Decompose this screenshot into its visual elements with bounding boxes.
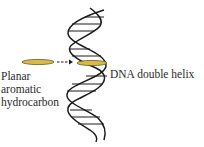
intercalation-arrow: [57, 60, 73, 65]
planar-aromatic-hydrocarbon-disc: [22, 59, 54, 64]
label-hydrocarbon: hydrocarbon: [1, 96, 59, 110]
label-aromatic: aromatic: [1, 83, 41, 97]
label-dna-double-helix: DNA double helix: [110, 68, 194, 82]
intercalated-molecule: [77, 60, 107, 65]
dna-strand-1: [67, 10, 106, 140]
label-planar: Planar: [1, 70, 30, 84]
intercalation-diagram: Planar aromatic hydrocarbon DNA double h…: [0, 0, 204, 147]
